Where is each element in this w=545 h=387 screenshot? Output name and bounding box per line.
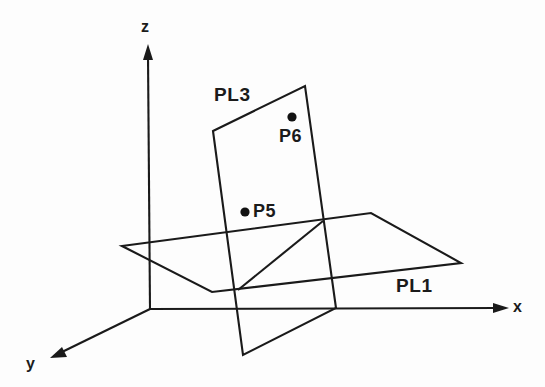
point-p5-dot — [240, 207, 249, 216]
y-axis-line — [62, 309, 150, 352]
plane-pl1-label: PL1 — [396, 276, 433, 295]
y-axis-arrowhead — [50, 347, 67, 358]
x-axis-label: x — [513, 299, 522, 315]
point-p6-dot — [287, 112, 296, 121]
z-axis-line — [148, 56, 150, 309]
point-p6-label: P6 — [279, 127, 302, 145]
point-p5-label: P5 — [253, 202, 276, 220]
figure-canvas — [0, 0, 545, 387]
x-axis-line — [150, 308, 497, 309]
axis-group — [50, 44, 509, 358]
geometry-figure: x y z PL3 PL1 P5 P6 — [0, 0, 545, 387]
x-axis-arrowhead — [493, 303, 509, 313]
z-axis-arrowhead — [143, 44, 153, 60]
y-axis-label: y — [26, 356, 35, 372]
plane-pl3-label: PL3 — [214, 85, 251, 104]
z-axis-label: z — [141, 19, 149, 35]
